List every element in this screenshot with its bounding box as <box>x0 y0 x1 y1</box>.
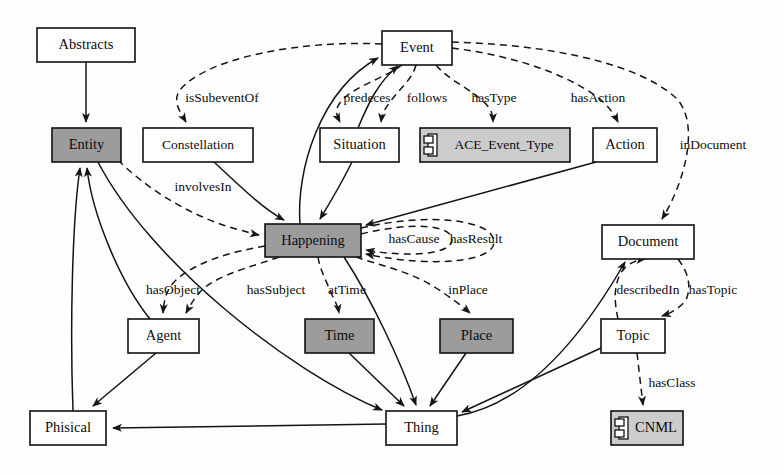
edge-label-describedIn: describedIn <box>617 282 680 297</box>
edge-label-predeces: predeces <box>343 90 390 105</box>
node-label: Phisical <box>45 419 91 435</box>
edge-event-hasAction <box>452 48 618 122</box>
edge-label-hasResult: hasResult <box>450 231 503 246</box>
edge-label-involvesIn: involvesIn <box>175 179 232 194</box>
edge-agent-entity <box>87 168 150 319</box>
node-label: Situation <box>333 136 386 152</box>
edge-place-thing <box>430 353 466 406</box>
node-label: Topic <box>617 327 650 343</box>
edge-situation-happening <box>320 162 352 219</box>
node-agent[interactable]: Agent <box>128 319 199 353</box>
ontology-graph: AbstractsEventEntityConstellationSituati… <box>0 0 783 475</box>
node-label: Place <box>461 327 492 343</box>
node-constellation[interactable]: Constellation <box>143 128 253 162</box>
node-label: Happening <box>281 232 345 248</box>
node-label: Thing <box>404 419 439 435</box>
edge-label-hasCause: hasCause <box>389 231 440 246</box>
node-thing[interactable]: Thing <box>386 411 457 445</box>
node-label: Time <box>324 327 354 343</box>
node-action[interactable]: Action <box>593 128 657 162</box>
node-label: Action <box>605 136 645 152</box>
node-label: CNML <box>635 419 677 435</box>
node-label: Agent <box>146 327 181 343</box>
edge-label-atTime: atTime <box>328 282 366 297</box>
node-entity[interactable]: Entity <box>52 128 121 162</box>
node-ace[interactable]: ACE_Event_Type <box>420 128 570 162</box>
edge-agent-phisical <box>93 353 156 406</box>
node-topic[interactable]: Topic <box>601 319 665 353</box>
edge-label-follows: follows <box>407 90 448 105</box>
edge-phisical-entity <box>72 168 80 411</box>
node-happening[interactable]: Happening <box>265 224 361 257</box>
node-label: Constellation <box>162 137 234 152</box>
node-situation[interactable]: Situation <box>320 128 399 162</box>
edge-label-hasType: hasType <box>472 90 517 105</box>
edge-thing-phisical <box>113 424 386 428</box>
edge-label-hasAction: hasAction <box>571 90 626 105</box>
edge-label-isSubeventOf: isSubeventOf <box>185 90 259 105</box>
node-label: Event <box>400 39 434 55</box>
node-time[interactable]: Time <box>305 319 374 353</box>
edge-happening-hasObject <box>163 246 265 313</box>
edge-label-hasObject: hasObject <box>146 282 200 297</box>
edge-label-hasSubject: hasSubject <box>247 282 306 297</box>
node-label: Entity <box>69 136 105 152</box>
node-abstracts[interactable]: Abstracts <box>37 28 135 62</box>
edge-action-happening <box>366 162 596 225</box>
node-phisical[interactable]: Phisical <box>30 411 106 445</box>
node-label: Document <box>618 233 678 249</box>
node-document[interactable]: Document <box>602 225 694 259</box>
edge-label-inPlace: inPlace <box>448 282 488 297</box>
edge-topic-hasClass <box>637 353 643 405</box>
node-label: Abstracts <box>59 36 114 52</box>
node-place[interactable]: Place <box>440 319 513 353</box>
edge-label-inDocument: inDocument <box>680 137 747 152</box>
node-cnml[interactable]: CNML <box>611 411 683 445</box>
diagram-canvas: AbstractsEventEntityConstellationSituati… <box>0 0 783 475</box>
edge-label-hasTopic: hasTopic <box>689 282 738 297</box>
node-label: ACE_Event_Type <box>455 137 554 152</box>
edge-label-hasClass: hasClass <box>648 375 695 390</box>
edge-event-isSubeventOf <box>177 43 382 122</box>
node-event[interactable]: Event <box>382 31 452 65</box>
